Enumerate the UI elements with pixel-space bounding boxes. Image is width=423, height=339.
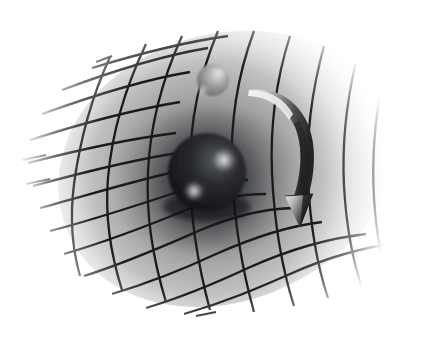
small-mass-sphere	[197, 64, 229, 96]
large-mass-highlight-secondary	[184, 181, 204, 201]
small-mass-highlight-secondary	[198, 85, 209, 96]
small-mass-highlight-primary	[214, 67, 227, 80]
large-mass-highlight-primary	[212, 148, 236, 172]
scene-canvas: Spacetime curvature caused by a massive …	[0, 0, 423, 339]
spacetime-curvature-figure: Spacetime curvature caused by a massive …	[0, 0, 423, 339]
large-mass-body	[168, 133, 246, 211]
